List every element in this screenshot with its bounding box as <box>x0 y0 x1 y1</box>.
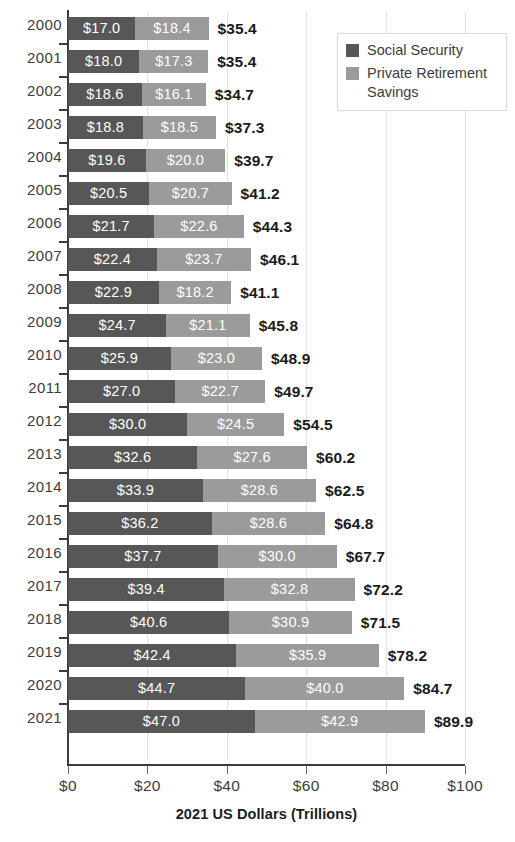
year-label: 2013 <box>4 445 62 462</box>
bar-stack: $24.7$21.1$45.8 <box>68 314 298 337</box>
year-tick <box>59 670 68 672</box>
bar-stack: $36.2$28.6$64.8 <box>68 512 374 535</box>
year-label: 2001 <box>4 49 62 66</box>
year-tick <box>59 439 68 441</box>
segment-social-security: $18.8 <box>68 116 143 139</box>
bar-total-label: $41.2 <box>232 182 280 205</box>
year-tick <box>59 373 68 375</box>
bar-total-label: $62.5 <box>316 479 364 502</box>
year-label: 2006 <box>4 214 62 231</box>
year-label: 2005 <box>4 181 62 198</box>
legend-label: Social Security <box>367 41 463 60</box>
segment-private-retirement: $22.6 <box>154 215 244 238</box>
bar-stack: $21.7$22.6$44.3 <box>68 215 292 238</box>
year-tick <box>59 274 68 276</box>
segment-social-security: $21.7 <box>68 215 154 238</box>
segment-social-security: $36.2 <box>68 512 212 535</box>
year-label: 2018 <box>4 610 62 627</box>
bar-stack: $22.9$18.2$41.1 <box>68 281 279 304</box>
bar-stack: $44.7$40.0$84.7 <box>68 677 453 700</box>
bar-total-label: $54.5 <box>284 413 332 436</box>
x-tick-label: $80 <box>351 777 421 795</box>
year-tick <box>59 505 68 507</box>
bar-total-label: $37.3 <box>216 116 264 139</box>
x-tick-label: $100 <box>430 777 500 795</box>
segment-private-retirement: $16.1 <box>142 83 206 106</box>
bar-stack: $33.9$28.6$62.5 <box>68 479 364 502</box>
x-tick-label: $20 <box>112 777 182 795</box>
bar-total-label: $39.7 <box>225 149 273 172</box>
bar-total-label: $34.7 <box>206 83 254 106</box>
year-label: 2002 <box>4 82 62 99</box>
year-label: 2019 <box>4 643 62 660</box>
gridline <box>465 12 466 760</box>
year-tick <box>59 241 68 243</box>
bar-rows: $17.0$18.4$35.4$18.0$17.3$35.4$18.6$16.1… <box>68 12 465 760</box>
year-label: 2015 <box>4 511 62 528</box>
segment-private-retirement: $40.0 <box>245 677 404 700</box>
year-label: 2003 <box>4 115 62 132</box>
segment-private-retirement: $18.2 <box>159 281 231 304</box>
x-tick-label: $0 <box>33 777 103 795</box>
year-label: 2010 <box>4 346 62 363</box>
bar-total-label: $35.4 <box>208 50 256 73</box>
year-tick <box>59 637 68 639</box>
year-tick <box>59 406 68 408</box>
segment-private-retirement: $42.9 <box>255 710 425 733</box>
x-axis-title: 2021 US Dollars (Trillions) <box>68 806 465 822</box>
bar-total-label: $35.4 <box>209 17 257 40</box>
year-label: 2009 <box>4 313 62 330</box>
bar-total-label: $84.7 <box>404 677 452 700</box>
x-tick <box>465 766 466 774</box>
segment-social-security: $24.7 <box>68 314 166 337</box>
bar-total-label: $48.9 <box>262 347 310 370</box>
chart-legend: Social SecurityPrivate Retirement Saving… <box>337 33 507 111</box>
year-tick <box>59 604 68 606</box>
year-label: 2014 <box>4 478 62 495</box>
segment-private-retirement: $20.7 <box>149 182 231 205</box>
bar-stack: $47.0$42.9$89.9 <box>68 710 473 733</box>
year-tick <box>59 109 68 111</box>
segment-social-security: $40.6 <box>68 611 229 634</box>
x-axis-line <box>67 764 465 766</box>
segment-private-retirement: $23.0 <box>171 347 262 370</box>
x-tick <box>306 766 307 774</box>
segment-social-security: $22.9 <box>68 281 159 304</box>
segment-private-retirement: $32.8 <box>224 578 354 601</box>
bar-stack: $17.0$18.4$35.4 <box>68 17 257 40</box>
year-label: 2016 <box>4 544 62 561</box>
bar-stack: $19.6$20.0$39.7 <box>68 149 273 172</box>
bar-total-label: $49.7 <box>265 380 313 403</box>
legend-swatch-icon <box>346 44 359 57</box>
segment-private-retirement: $18.4 <box>135 17 208 40</box>
bar-stack: $18.0$17.3$35.4 <box>68 50 256 73</box>
segment-social-security: $19.6 <box>68 149 146 172</box>
segment-social-security: $27.0 <box>68 380 175 403</box>
bar-stack: $27.0$22.7$49.7 <box>68 380 314 403</box>
bar-stack: $20.5$20.7$41.2 <box>68 182 280 205</box>
segment-private-retirement: $17.3 <box>139 50 208 73</box>
year-tick <box>59 340 68 342</box>
segment-social-security: $32.6 <box>68 446 197 469</box>
year-axis: 2000200120022003200420052006200720082009… <box>0 12 62 760</box>
bar-total-label: $78.2 <box>379 644 427 667</box>
segment-private-retirement: $23.7 <box>157 248 251 271</box>
segment-social-security: $20.5 <box>68 182 149 205</box>
bar-total-label: $60.2 <box>307 446 355 469</box>
bar-stack: $30.0$24.5$54.5 <box>68 413 333 436</box>
segment-social-security: $30.0 <box>68 413 187 436</box>
year-tick <box>59 76 68 78</box>
legend-item: Private Retirement Savings <box>346 64 500 102</box>
x-tick <box>227 766 228 774</box>
bar-total-label: $89.9 <box>425 710 473 733</box>
year-label: 2007 <box>4 247 62 264</box>
bar-total-label: $64.8 <box>325 512 373 535</box>
bar-stack: $40.6$30.9$71.5 <box>68 611 400 634</box>
segment-private-retirement: $28.6 <box>212 512 326 535</box>
legend-label: Private Retirement Savings <box>367 64 500 102</box>
year-tick <box>59 571 68 573</box>
bar-total-label: $72.2 <box>355 578 403 601</box>
year-tick <box>59 538 68 540</box>
bar-stack: $18.6$16.1$34.7 <box>68 83 254 106</box>
bar-total-label: $71.5 <box>352 611 400 634</box>
